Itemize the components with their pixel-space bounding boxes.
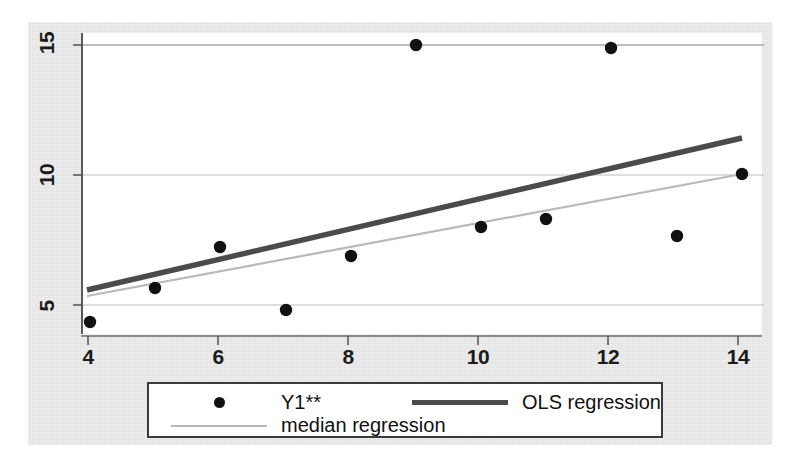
data-point	[671, 230, 683, 242]
data-point	[410, 39, 422, 51]
plot-svg	[83, 33, 764, 334]
legend-entry-ols: OLS regression	[412, 391, 661, 414]
median-regression-line	[87, 174, 742, 296]
legend-thin-line-wrap	[171, 425, 267, 427]
x-tick-label-6: 6	[198, 345, 238, 369]
x-tick-label-8: 8	[328, 345, 368, 369]
plot-area	[81, 33, 762, 334]
data-point	[605, 42, 617, 54]
legend-label-ols: OLS regression	[522, 391, 661, 414]
data-point	[280, 304, 292, 316]
data-point	[475, 221, 487, 233]
data-point	[214, 241, 226, 253]
x-tick-label-12: 12	[586, 345, 630, 369]
data-point	[540, 213, 552, 225]
legend-marker-dot-wrap	[171, 397, 267, 408]
x-tick-label-14: 14	[716, 345, 760, 369]
legend-label-y1: Y1**	[281, 391, 321, 414]
ols-regression-line	[87, 138, 742, 290]
legend-thick-line-wrap	[412, 400, 508, 405]
data-point	[345, 250, 357, 262]
thin-line-icon	[171, 425, 267, 427]
legend-entry-median: median regression	[171, 414, 446, 437]
data-point	[84, 316, 96, 328]
thick-line-icon	[412, 400, 508, 405]
x-tick-label-4: 4	[68, 345, 108, 369]
y-tick-label-15: 15	[35, 30, 59, 56]
y-tick-label-10: 10	[35, 162, 59, 188]
y-tick-label-5: 5	[35, 297, 59, 315]
legend-label-median: median regression	[281, 414, 446, 437]
legend: Y1** OLS regression median regression	[147, 382, 663, 438]
data-point	[736, 168, 748, 180]
dot-marker-icon	[214, 397, 225, 408]
legend-entry-y1: Y1**	[171, 391, 321, 414]
chart-figure: 15 10 5	[0, 0, 801, 470]
x-tick-label-10: 10	[456, 345, 500, 369]
data-point	[149, 282, 161, 294]
